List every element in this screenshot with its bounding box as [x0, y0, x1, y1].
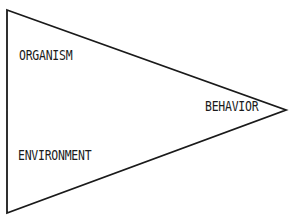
label-organism: ORGANISM — [19, 47, 72, 63]
label-behavior: BEHAVIOR — [205, 98, 258, 114]
label-environment: ENVIRONMENT — [18, 147, 91, 163]
